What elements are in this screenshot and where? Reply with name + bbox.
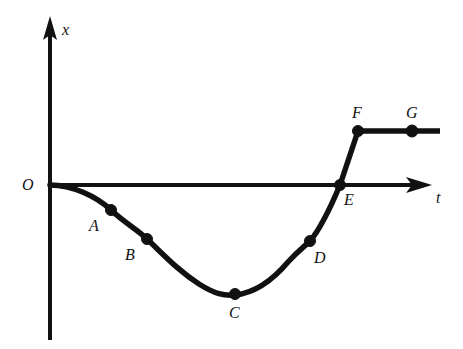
point-label-f: F	[352, 105, 362, 121]
data-point-a	[106, 205, 117, 216]
vertical-axis-label: x	[62, 22, 69, 38]
point-label-g: G	[406, 105, 418, 121]
data-point-c	[230, 289, 241, 300]
position-curve	[50, 131, 358, 295]
horizontal-axis-label: t	[436, 190, 440, 206]
data-point-e	[335, 180, 346, 191]
data-point-g	[406, 125, 418, 137]
point-label-b: B	[125, 247, 135, 263]
vertical-axis	[43, 16, 57, 340]
position-time-graph-figure: x t O A B C D E F G	[0, 0, 463, 349]
horizontal-axis	[50, 177, 432, 193]
point-label-e: E	[344, 192, 354, 208]
origin-label: O	[22, 177, 34, 193]
data-point-d	[305, 236, 316, 247]
point-label-d: D	[314, 250, 326, 266]
data-point-b	[142, 234, 153, 245]
data-point-f	[353, 126, 364, 137]
point-label-a: A	[89, 218, 99, 234]
graph-canvas	[0, 0, 463, 349]
point-label-c: C	[229, 305, 240, 321]
